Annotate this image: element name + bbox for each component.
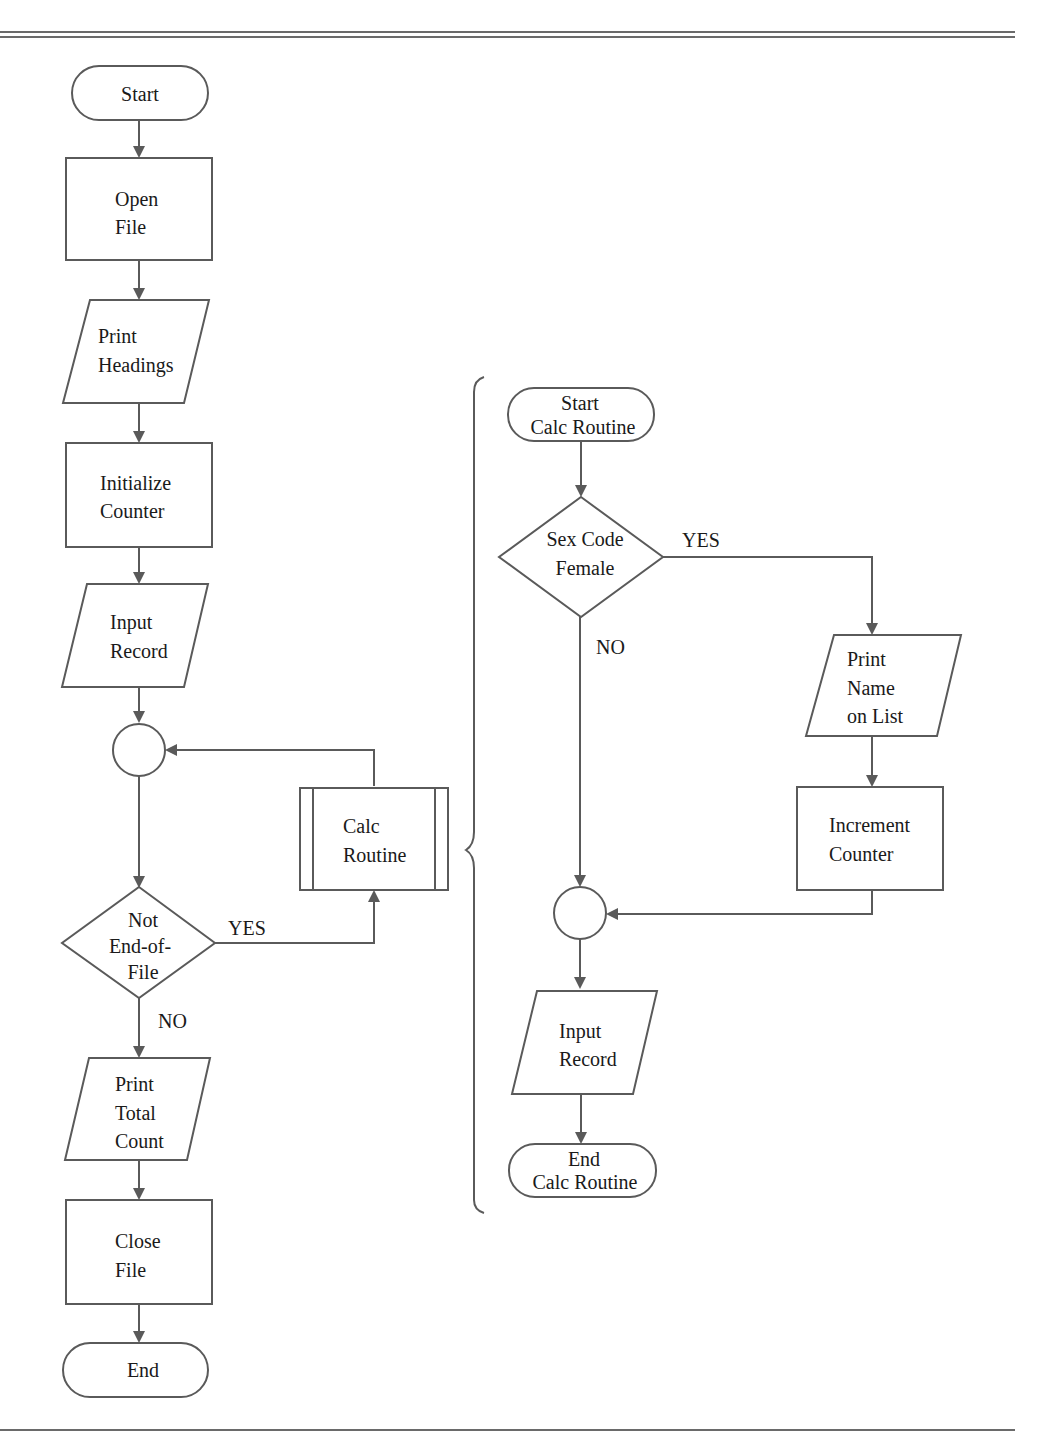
arrow-icon bbox=[133, 572, 145, 584]
svg-text:Headings: Headings bbox=[98, 354, 174, 377]
svg-text:Calc Routine: Calc Routine bbox=[533, 1171, 638, 1193]
arrow-icon bbox=[133, 1046, 145, 1058]
connector-circle bbox=[113, 724, 165, 776]
end-terminator: End bbox=[63, 1343, 208, 1397]
input-record-io: Input Record bbox=[62, 584, 208, 687]
svg-text:Counter: Counter bbox=[829, 843, 894, 865]
svg-text:Counter: Counter bbox=[100, 500, 165, 522]
svg-text:End-of-: End-of- bbox=[109, 935, 171, 957]
svg-text:File: File bbox=[115, 216, 146, 238]
arrow-icon bbox=[133, 1331, 145, 1343]
print-name-io: Print Name on List bbox=[806, 635, 961, 736]
svg-text:Not: Not bbox=[128, 909, 158, 931]
arrow-icon bbox=[574, 977, 586, 989]
svg-text:on List: on List bbox=[847, 705, 904, 727]
arrow-icon bbox=[606, 908, 618, 920]
start-terminator: Start bbox=[72, 66, 208, 120]
calc-input-record-io: Input Record bbox=[512, 991, 657, 1094]
arrow-icon bbox=[133, 711, 145, 723]
svg-text:Calc Routine: Calc Routine bbox=[531, 416, 636, 438]
svg-text:Total: Total bbox=[115, 1102, 156, 1124]
end-of-file-decision: Not End-of- File bbox=[62, 887, 215, 998]
arrow-icon bbox=[368, 890, 380, 902]
print-headings-io: Print Headings bbox=[63, 300, 209, 403]
svg-text:End: End bbox=[568, 1148, 600, 1170]
svg-text:File: File bbox=[115, 1259, 146, 1281]
arrow-icon bbox=[574, 875, 586, 887]
sex-code-decision: Sex Code Female bbox=[499, 497, 663, 617]
calc-connector-circle bbox=[554, 887, 606, 939]
svg-text:Input: Input bbox=[559, 1020, 602, 1043]
svg-text:File: File bbox=[127, 961, 158, 983]
arrow-icon bbox=[866, 623, 878, 635]
calc-yes-label: YES bbox=[682, 529, 720, 551]
calc-routine-flow: Start Calc Routine Sex Code Female YES P… bbox=[499, 388, 961, 1197]
svg-text:Name: Name bbox=[847, 677, 895, 699]
open-file-process: Open File bbox=[66, 158, 212, 260]
svg-text:Routine: Routine bbox=[343, 844, 406, 866]
svg-text:Start: Start bbox=[121, 83, 159, 105]
svg-text:End: End bbox=[127, 1359, 159, 1381]
close-file-process: Close File bbox=[66, 1200, 212, 1304]
svg-text:Start: Start bbox=[561, 392, 599, 414]
curly-brace bbox=[466, 377, 484, 1213]
calc-no-label: NO bbox=[596, 636, 625, 658]
svg-text:Increment: Increment bbox=[829, 814, 911, 836]
main-flow: Start Open File Print Headings Initializ… bbox=[62, 66, 448, 1397]
svg-text:Close: Close bbox=[115, 1230, 161, 1252]
initialize-counter-process: Initialize Counter bbox=[66, 443, 212, 547]
arrow-icon bbox=[866, 775, 878, 787]
svg-text:Input: Input bbox=[110, 611, 153, 634]
arrow-icon bbox=[133, 431, 145, 443]
svg-text:Open: Open bbox=[115, 188, 158, 211]
calc-end-terminator: End Calc Routine bbox=[509, 1144, 656, 1197]
flowchart-canvas: Start Open File Print Headings Initializ… bbox=[0, 0, 1037, 1442]
svg-text:Record: Record bbox=[110, 640, 168, 662]
yes-label: YES bbox=[228, 917, 266, 939]
svg-text:Initialize: Initialize bbox=[100, 472, 171, 494]
svg-text:Record: Record bbox=[559, 1048, 617, 1070]
no-label: NO bbox=[158, 1010, 187, 1032]
arrow-icon bbox=[575, 1132, 587, 1144]
arrow-icon bbox=[165, 744, 177, 756]
print-total-count-io: Print Total Count bbox=[65, 1058, 210, 1160]
svg-text:Calc: Calc bbox=[343, 815, 380, 837]
svg-text:Print: Print bbox=[98, 325, 137, 347]
increment-counter-process: Increment Counter bbox=[797, 787, 943, 890]
arrow-icon bbox=[575, 485, 587, 497]
svg-text:Sex Code: Sex Code bbox=[546, 528, 623, 550]
svg-text:Print: Print bbox=[847, 648, 886, 670]
arrow-icon bbox=[133, 1188, 145, 1200]
arrow-icon bbox=[133, 146, 145, 158]
svg-text:Print: Print bbox=[115, 1073, 154, 1095]
calc-start-terminator: Start Calc Routine bbox=[508, 388, 654, 441]
svg-text:Female: Female bbox=[556, 557, 615, 579]
svg-text:Count: Count bbox=[115, 1130, 164, 1152]
calc-routine-subprocess: Calc Routine bbox=[300, 788, 448, 890]
arrow-icon bbox=[133, 288, 145, 300]
